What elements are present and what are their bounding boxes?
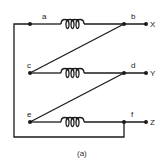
node-e-dot [28, 120, 32, 124]
delta-winding-diagram: a b X c d Y e f Z (a) [0, 0, 167, 165]
coil-ab-icon [61, 20, 84, 29]
node-f-dot [122, 120, 126, 124]
label-a: a [42, 12, 47, 21]
node-a-dot [28, 22, 32, 26]
node-d-dot [122, 71, 126, 75]
node-b-dot [122, 22, 126, 26]
label-e: e [27, 110, 32, 119]
label-c: c [27, 61, 31, 70]
label-f: f [131, 110, 134, 119]
winding-ef [30, 118, 146, 127]
label-d: d [131, 61, 135, 70]
coil-ef-icon [61, 118, 84, 127]
label-z: Z [150, 118, 155, 127]
connection-c-b [30, 24, 124, 73]
terminal-z-dot [144, 120, 148, 124]
winding-cd [30, 69, 146, 78]
label-b: b [131, 12, 136, 21]
figure-caption: (a) [77, 149, 87, 158]
terminal-x-dot [144, 22, 148, 26]
coil-cd-icon [61, 69, 84, 78]
node-c-dot [28, 71, 32, 75]
connection-e-d [30, 73, 124, 122]
terminal-y-dot [144, 71, 148, 75]
winding-ab [30, 20, 146, 29]
label-y: Y [150, 69, 156, 78]
label-x: X [150, 20, 156, 29]
